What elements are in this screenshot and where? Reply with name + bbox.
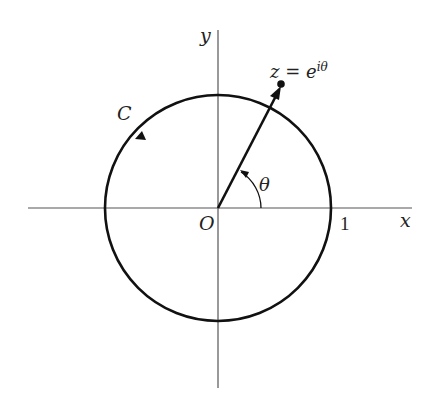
angle-arc xyxy=(241,172,261,208)
point-label: z = eiθ xyxy=(269,60,329,82)
y-axis-label: y xyxy=(199,24,211,46)
point-label-base: z = e xyxy=(269,61,317,82)
radius-arrowhead-icon xyxy=(270,86,281,100)
x-axis-label: x xyxy=(400,209,411,231)
point-label-exponent: iθ xyxy=(317,60,329,74)
unit-circle-diagram: y x O 1 C θ z = eiθ xyxy=(0,0,437,395)
direction-arrow-icon xyxy=(135,131,146,140)
curve-label: C xyxy=(117,102,132,124)
angle-label: θ xyxy=(259,174,270,195)
origin-label: O xyxy=(199,212,215,234)
unit-label: 1 xyxy=(340,213,350,234)
